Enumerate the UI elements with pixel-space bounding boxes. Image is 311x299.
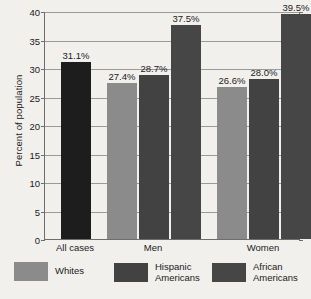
x-axis-tick-label: Women	[247, 242, 280, 253]
legend-label: Hispanic Americans	[155, 262, 200, 283]
legend-item: Hispanic Americans	[114, 262, 200, 283]
bar: 26.6%	[217, 87, 247, 239]
legend-label: African Americans	[253, 262, 298, 283]
y-axis-tick-label: 35	[29, 35, 40, 46]
chart-legend: WhitesHispanic AmericansAfrican American…	[14, 262, 304, 294]
bar-chart-figure: Percent of population 0510152025303540 3…	[0, 0, 311, 299]
legend-swatch	[114, 263, 148, 282]
legend-item: African Americans	[212, 262, 298, 283]
bar: 28.7%	[139, 75, 169, 239]
x-axis-tick-label: All cases	[56, 242, 94, 253]
legend-swatch	[212, 263, 246, 282]
legend-swatch	[14, 262, 48, 281]
bar-value-label: 28.0%	[251, 67, 278, 78]
y-axis-tick-label: 25	[29, 92, 40, 103]
y-axis-title: Percent of population	[13, 46, 24, 196]
plot-area: 0510152025303540 31.1%27.4%28.7%37.5%26.…	[44, 12, 300, 240]
y-axis-tick-label: 10	[29, 178, 40, 189]
y-axis-tick-mark-right	[299, 240, 303, 241]
y-axis-tick-label: 20	[29, 121, 40, 132]
x-axis-tick-label: Men	[144, 242, 162, 253]
y-axis-tick-label: 0	[35, 235, 40, 246]
bar: 28.0%	[249, 79, 279, 239]
bar: 37.5%	[171, 25, 201, 239]
bars-layer: 31.1%27.4%28.7%37.5%26.6%28.0%39.5%	[45, 12, 299, 239]
bar: 39.5%	[281, 14, 311, 239]
y-axis-tick-label: 30	[29, 64, 40, 75]
legend-label: Whites	[55, 266, 84, 277]
legend-item: Whites	[14, 262, 84, 281]
bar-value-label: 26.6%	[219, 75, 246, 86]
bar-value-label: 37.5%	[173, 13, 200, 24]
y-axis-tick-mark	[41, 240, 45, 241]
bar-value-label: 28.7%	[141, 63, 168, 74]
y-axis-tick-label: 40	[29, 7, 40, 18]
bar-value-label: 31.1%	[63, 50, 90, 61]
bar: 31.1%	[61, 62, 91, 239]
y-axis-tick-label: 5	[35, 206, 40, 217]
y-axis-tick-label: 15	[29, 149, 40, 160]
bar: 27.4%	[107, 83, 137, 239]
bar-value-label: 39.5%	[283, 2, 310, 13]
bar-value-label: 27.4%	[109, 71, 136, 82]
